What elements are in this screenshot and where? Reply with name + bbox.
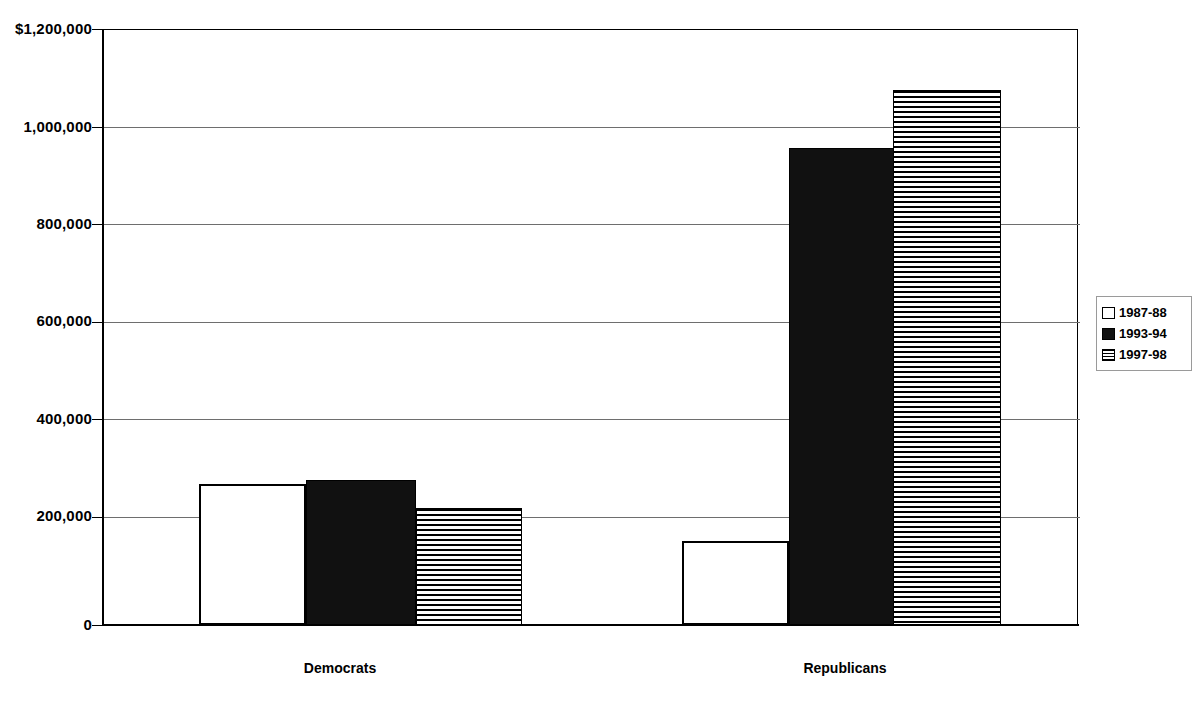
legend-item-1997-98: 1997-98	[1102, 344, 1187, 365]
plot-area	[102, 29, 1078, 625]
y-axis-tick-mark	[92, 625, 102, 626]
y-axis-tick-label: 400,000	[0, 410, 92, 428]
y-axis-tick-label: 600,000	[0, 312, 92, 330]
legend-item-1993-94: 1993-94	[1102, 323, 1187, 344]
bar-republicans-1993-94	[789, 148, 896, 625]
y-axis-tick-mark	[92, 127, 102, 128]
y-axis-tick-mark	[92, 419, 102, 420]
x-axis-line	[102, 624, 1079, 626]
y-axis-tick-mark	[92, 224, 102, 225]
bar-democrats-1997-98	[416, 508, 522, 625]
y-axis-tick-label: 1,000,000	[0, 118, 92, 136]
y-axis-tick-label: 0	[0, 616, 92, 634]
legend: 1987-88 1993-94 1997-98	[1096, 296, 1192, 371]
y-axis-tick-mark	[92, 29, 102, 30]
y-axis-tick-mark	[92, 322, 102, 323]
y-axis-tick-mark	[92, 517, 102, 518]
legend-label: 1993-94	[1119, 327, 1167, 340]
striped-square-icon	[1102, 349, 1115, 361]
y-axis-tick-label: 200,000	[0, 507, 92, 525]
bar-chart: $1,200,000 1,000,000 800,000 600,000 400…	[0, 0, 1199, 704]
legend-label: 1997-98	[1119, 348, 1167, 361]
x-axis-category-democrats: Democrats	[250, 660, 430, 676]
bar-republicans-1997-98	[893, 90, 1001, 625]
legend-item-1987-88: 1987-88	[1102, 302, 1187, 323]
white-square-icon	[1102, 307, 1115, 319]
black-square-icon	[1102, 328, 1115, 340]
y-axis-tick-label: $1,200,000	[0, 20, 92, 38]
bar-democrats-1993-94	[306, 480, 416, 625]
legend-label: 1987-88	[1119, 306, 1167, 319]
y-axis-tick-label: 800,000	[0, 215, 92, 233]
x-axis-category-republicans: Republicans	[745, 660, 945, 676]
bar-democrats-1987-88	[199, 484, 306, 625]
bar-republicans-1987-88	[682, 541, 789, 625]
